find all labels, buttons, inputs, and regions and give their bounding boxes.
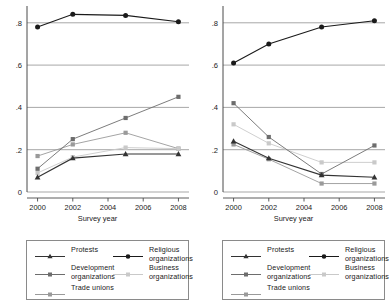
- data-point-circle: [372, 18, 377, 23]
- x-tick-label: 2000: [225, 203, 241, 212]
- x-tick-label: 2008: [170, 203, 186, 212]
- legend-key-square: [33, 270, 67, 279]
- x-tick-label: 2006: [331, 203, 347, 212]
- legend-right: ProtestsReligious organizationsDevelopme…: [222, 240, 385, 300]
- legend-item-trade-unions[interactable]: Trade unions: [229, 284, 310, 294]
- x-tick-label: 2002: [65, 203, 81, 212]
- x-tick-label: 2004: [100, 203, 116, 212]
- x-tick-label: 2008: [366, 203, 382, 212]
- legend-left: ProtestsReligious organizationsDevelopme…: [26, 240, 189, 300]
- series-protests: [231, 138, 378, 179]
- y-tick-label: .4: [212, 103, 218, 112]
- legend-key-square: [111, 270, 145, 279]
- legend-item-religious[interactable]: Religious organizations: [307, 246, 389, 263]
- legend-marker-icon: [111, 247, 145, 256]
- legend-marker-icon: [33, 285, 67, 294]
- legend-marker-icon: [33, 265, 67, 274]
- legend-marker-icon: [307, 265, 341, 274]
- legend-item-label: Business organizations: [145, 264, 193, 281]
- data-point-square: [71, 137, 75, 141]
- series-protests: [35, 151, 182, 179]
- legend-marker-icon: [229, 285, 263, 294]
- line-chart-left: 0.2.4.6.820002002200420062008: [0, 0, 195, 230]
- legend-key-square: [33, 290, 67, 299]
- legend-item-label: Protests: [263, 246, 294, 255]
- series-line: [38, 133, 179, 156]
- y-tick-label: .6: [212, 61, 218, 70]
- legend-item-trade-unions[interactable]: Trade unions: [33, 284, 114, 294]
- data-point-square: [176, 147, 180, 151]
- legend-item-label: Trade unions: [263, 284, 310, 293]
- data-point-triangle: [231, 138, 237, 143]
- legend-item-development[interactable]: Development organizations: [33, 264, 115, 281]
- x-tick-label: 2004: [296, 203, 312, 212]
- legend-item-protests[interactable]: Protests: [33, 246, 98, 256]
- legend-key-triangle: [33, 252, 67, 261]
- legend-item-development[interactable]: Development organizations: [229, 264, 311, 281]
- data-point-circle: [35, 25, 40, 30]
- legend-item-label: Religious organizations: [145, 246, 193, 263]
- chart-panel-right: 0.2.4.6.820002002200420062008: [196, 0, 391, 230]
- series-line: [234, 141, 375, 177]
- data-point-square: [267, 141, 271, 145]
- data-point-square: [35, 167, 39, 171]
- legend-item-label: Business organizations: [341, 264, 389, 281]
- x-axis-label-left: Survey year: [0, 214, 195, 223]
- data-point-square: [35, 154, 39, 158]
- y-tick-label: .2: [212, 146, 218, 155]
- y-tick-label: .8: [16, 19, 22, 28]
- y-tick-label: .6: [16, 61, 22, 70]
- series-religious-organizations: [35, 12, 181, 30]
- x-tick-label: 2000: [29, 203, 45, 212]
- x-tick-label: 2002: [261, 203, 277, 212]
- legend-item-business[interactable]: Business organizations: [307, 264, 389, 281]
- data-point-square: [372, 160, 376, 164]
- legend-key-circle: [307, 252, 341, 261]
- data-point-circle: [176, 19, 181, 24]
- series-trade-unions: [231, 142, 376, 185]
- legend-item-protests[interactable]: Protests: [229, 246, 294, 256]
- legend-marker-icon: [33, 247, 67, 256]
- legend-item-business[interactable]: Business organizations: [111, 264, 193, 281]
- data-point-square: [231, 122, 235, 126]
- legend-item-label: Trade unions: [67, 284, 114, 293]
- legend-key-square: [229, 270, 263, 279]
- data-point-circle: [266, 41, 271, 46]
- legend-key-square: [229, 290, 263, 299]
- data-point-square: [124, 131, 128, 135]
- data-point-circle: [319, 25, 324, 30]
- x-axis-label-right: Survey year: [196, 214, 391, 223]
- y-tick-label: .2: [16, 146, 22, 155]
- x-tick-label: 2006: [135, 203, 151, 212]
- y-tick-label: 0: [18, 188, 22, 197]
- y-tick-label: .8: [212, 19, 218, 28]
- legend-item-label: Protests: [67, 246, 98, 255]
- series-line: [234, 21, 375, 63]
- legend-marker-icon: [307, 247, 341, 256]
- series-business-organizations: [231, 122, 376, 164]
- data-point-square: [372, 143, 376, 147]
- data-point-square: [267, 135, 271, 139]
- y-tick-label: 0: [214, 188, 218, 197]
- data-point-square: [71, 142, 75, 146]
- series-line: [38, 154, 179, 177]
- series-religious-organizations: [231, 18, 377, 65]
- legend-item-label: Religious organizations: [341, 246, 389, 263]
- legend-key-circle: [111, 252, 145, 261]
- legend-marker-icon: [229, 265, 263, 274]
- legend-item-label: Development organizations: [263, 264, 311, 281]
- legend-marker-icon: [111, 265, 145, 274]
- legend-item-religious[interactable]: Religious organizations: [111, 246, 193, 263]
- data-point-square: [372, 181, 376, 185]
- data-point-circle: [231, 60, 236, 65]
- data-point-square: [320, 160, 324, 164]
- y-tick-label: .4: [16, 103, 22, 112]
- data-point-circle: [123, 13, 128, 18]
- legend-marker-icon: [229, 247, 263, 256]
- legend-key-triangle: [229, 252, 263, 261]
- line-chart-right: 0.2.4.6.820002002200420062008: [196, 0, 391, 230]
- series-line: [234, 103, 375, 174]
- series-line: [38, 14, 179, 27]
- data-point-square: [320, 181, 324, 185]
- series-line: [234, 144, 375, 183]
